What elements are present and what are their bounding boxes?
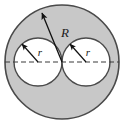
right-radius-label: r bbox=[86, 46, 91, 58]
figure-container: R r r bbox=[0, 0, 126, 125]
geometry-diagram: R r r bbox=[0, 0, 126, 125]
left-radius-label: r bbox=[38, 46, 43, 58]
outer-radius-label: R bbox=[60, 25, 69, 40]
